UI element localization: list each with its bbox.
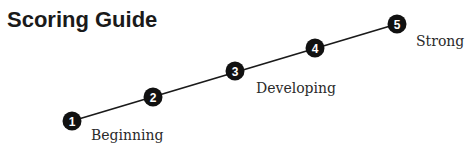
- label-strong: Strong: [416, 33, 464, 49]
- scale-point-number: 2: [150, 91, 157, 105]
- scale-point-2: 2: [144, 88, 163, 107]
- scoring-scale-diagram: 1 2 3 4 5: [0, 0, 469, 158]
- scale-point-3: 3: [226, 62, 245, 81]
- scale-point-4: 4: [306, 39, 325, 58]
- scale-point-number: 4: [312, 42, 319, 56]
- scale-point-number: 1: [69, 115, 76, 129]
- label-beginning: Beginning: [91, 127, 164, 143]
- label-developing: Developing: [256, 80, 336, 96]
- scale-point-1: 1: [63, 112, 82, 131]
- scale-point-5: 5: [388, 15, 407, 34]
- scale-point-number: 5: [394, 18, 401, 32]
- scale-point-number: 3: [232, 65, 239, 79]
